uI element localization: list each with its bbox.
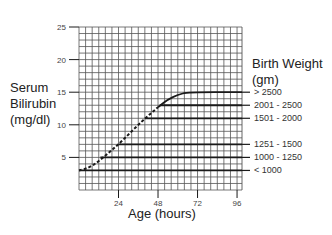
legend-label: 1501 - 2000 <box>254 113 302 123</box>
legend-connectors <box>242 92 250 170</box>
x-tick-label: 24 <box>114 199 123 208</box>
legend-label: 1251 - 1500 <box>254 139 302 149</box>
y-axis-title-line-3: (mg/dl) <box>10 112 50 127</box>
y-tick-label: 10 <box>57 121 66 130</box>
legend-label: 2001 - 2500 <box>254 100 302 110</box>
y-axis-title-line-2: Bilirubin <box>10 96 56 111</box>
legend-label: < 1000 <box>254 165 282 175</box>
y-tick-label: 5 <box>62 153 67 162</box>
bilirubin-chart: 24487296510152025 Serum Bilirubin (mg/dl… <box>0 0 332 235</box>
legend-label: 1000 - 1250 <box>254 152 302 162</box>
y-tick-label: 25 <box>57 23 66 32</box>
y-tick-label: 15 <box>57 88 66 97</box>
x-axis-title: Age (hours) <box>128 206 196 221</box>
legend-title-line-2: (gm) <box>252 72 279 87</box>
legend-label: > 2500 <box>254 87 282 97</box>
x-tick-label: 96 <box>233 199 242 208</box>
y-axis-title-line-1: Serum <box>10 80 48 95</box>
grid <box>79 27 242 190</box>
legend-title-line-1: Birth Weight <box>252 56 323 71</box>
legend-labels: > 25002001 - 25001501 - 20001251 - 15001… <box>254 87 302 175</box>
y-tick-label: 20 <box>57 56 66 65</box>
